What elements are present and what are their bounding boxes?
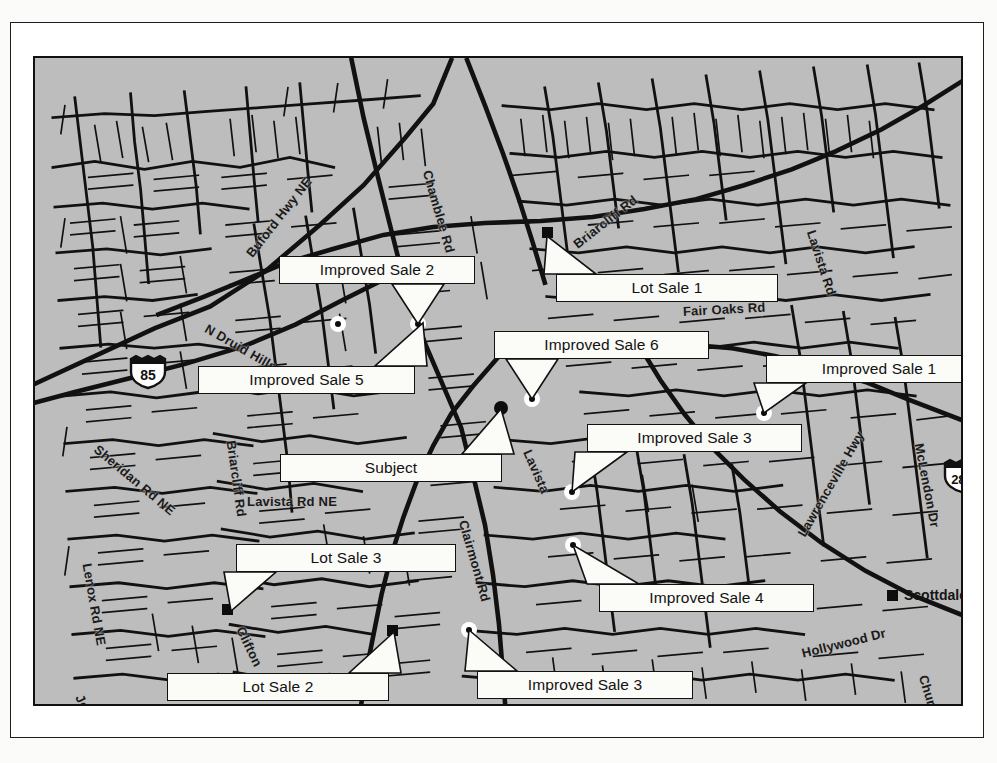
callout-improved-sale-1[interactable]: Improved Sale 1 <box>766 355 963 383</box>
callout-improved-sale-2[interactable]: Improved Sale 2 <box>279 256 475 284</box>
callout-improved-sale-6[interactable]: Improved Sale 6 <box>494 331 709 359</box>
callout-subject[interactable]: Subject <box>280 454 502 482</box>
callout-lot-sale-3[interactable]: Lot Sale 3 <box>236 544 456 572</box>
callout-improved-sale-5[interactable]: Improved Sale 5 <box>198 366 415 394</box>
map-canvas[interactable]: Buford Hwy NE Chamblee Rd Briarcliff Rd … <box>33 56 963 706</box>
map-page: Buford Hwy NE Chamblee Rd Briarcliff Rd … <box>0 0 997 763</box>
callout-lot-sale-1[interactable]: Lot Sale 1 <box>556 274 778 302</box>
callout-improved-sale-4[interactable]: Improved Sale 4 <box>599 584 814 612</box>
callout-improved-sale-3-upper[interactable]: Improved Sale 3 <box>587 424 802 452</box>
callout-lot-sale-2[interactable]: Lot Sale 2 <box>167 673 389 701</box>
callout-improved-sale-3-lower[interactable]: Improved Sale 3 <box>477 671 693 699</box>
